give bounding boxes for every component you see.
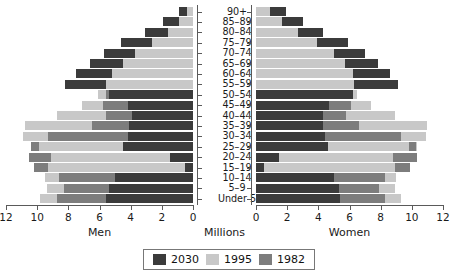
segment-1982-women (329, 101, 351, 110)
segment-1995-women (256, 163, 410, 172)
age-group-label: 75–79 (206, 38, 268, 47)
x-tick-men (68, 205, 69, 210)
age-group-label: 60–64 (206, 69, 268, 78)
age-group-label: 5–9 (206, 183, 268, 192)
x-tick-label-men: 12 (0, 211, 19, 223)
segment-1995-women (256, 69, 353, 78)
x-tick-label-women: 4 (305, 211, 331, 223)
segment-1982-women (395, 163, 411, 172)
age-group-label: 65–69 (206, 59, 268, 68)
x-tick-women (256, 205, 257, 210)
segment-2030-women (282, 17, 302, 26)
segment-2030-women (298, 28, 323, 37)
segment-2030-women (256, 184, 339, 193)
segment-2030-women (354, 80, 398, 89)
segment-1982-women (393, 153, 416, 162)
x-tick-label-men: 0 (180, 211, 206, 223)
legend-item: 1995 (206, 253, 252, 266)
legend-item: 1982 (259, 253, 305, 266)
x-tick-label-men: 8 (55, 211, 81, 223)
x-tick-label-women: 2 (274, 211, 300, 223)
age-tick-left (198, 199, 202, 200)
segment-2030-women (353, 69, 390, 78)
segment-1982-women (409, 142, 417, 151)
population-pyramid-chart: 90+85–8980–8475–7970–7465–6960–6455–5950… (0, 0, 450, 274)
segment-1982-women (325, 132, 401, 141)
age-group-label: 55–59 (206, 79, 268, 88)
age-tick-left (198, 74, 202, 75)
x-tick-women (318, 205, 319, 210)
axis-label-men: Men (60, 226, 140, 239)
age-group-label: 80–84 (206, 27, 268, 36)
age-tick-left (198, 147, 202, 148)
x-tick-women (443, 205, 444, 210)
age-tick-left (198, 32, 202, 33)
x-tick-label-women: 0 (243, 211, 269, 223)
age-group-label: 85–89 (206, 17, 268, 26)
age-tick-left (198, 105, 202, 106)
legend-label-1982: 1982 (277, 253, 305, 266)
age-tick-left (198, 168, 202, 169)
legend-label-1995: 1995 (224, 253, 252, 266)
age-group-label: 45–49 (206, 100, 268, 109)
x-tick-men (6, 205, 7, 210)
segment-2030-women (345, 59, 378, 68)
x-tick-label-women: 12 (430, 211, 450, 223)
age-group-label: 70–74 (206, 48, 268, 57)
segment-1982-women (323, 111, 346, 120)
age-tick-left (198, 53, 202, 54)
x-tick-women (350, 205, 351, 210)
axis-label-millions: Millions (185, 226, 265, 239)
age-group-label: 50–54 (206, 90, 268, 99)
age-group-label: Under 5 (206, 194, 268, 203)
legend-label-2030: 2030 (171, 253, 199, 266)
age-tick-left (198, 116, 202, 117)
axis-label-women: Women (310, 226, 390, 239)
segment-2030-women (317, 38, 348, 47)
age-tick-left (198, 178, 202, 179)
age-tick-left (198, 136, 202, 137)
center-axis-right (251, 5, 252, 205)
legend-swatch-1982 (259, 254, 272, 265)
age-tick-left (198, 95, 202, 96)
age-tick-left (198, 188, 202, 189)
x-tick-men (193, 205, 194, 210)
age-group-label: 30–34 (206, 131, 268, 140)
age-group-label: 10–14 (206, 173, 268, 182)
chart-legend: 203019951982 (143, 249, 315, 270)
x-tick-men (131, 205, 132, 210)
segment-2030-women (256, 194, 340, 203)
x-tick-label-men: 2 (149, 211, 175, 223)
age-group-label: 90+ (206, 7, 268, 16)
segment-2030-women (334, 49, 365, 58)
center-axis-left (197, 5, 198, 205)
x-tick-men (162, 205, 163, 210)
age-tick-left (198, 84, 202, 85)
x-tick-women (287, 205, 288, 210)
segment-1982-women (323, 121, 359, 130)
segment-2030-women (256, 90, 353, 99)
x-tick-men (37, 205, 38, 210)
age-tick-left (198, 126, 202, 127)
x-tick-label-men: 4 (118, 211, 144, 223)
age-tick-left (198, 22, 202, 23)
x-tick-label-women: 10 (399, 211, 425, 223)
x-tick-men (100, 205, 101, 210)
age-group-label: 35–39 (206, 121, 268, 130)
x-tick-label-women: 6 (337, 211, 363, 223)
age-group-label: 20–24 (206, 152, 268, 161)
age-tick-left (198, 43, 202, 44)
x-tick-label-men: 6 (87, 211, 113, 223)
segment-1982-women (340, 194, 385, 203)
segment-2030-women (270, 7, 286, 16)
segment-1982-women (334, 173, 385, 182)
segment-1995-women (256, 80, 354, 89)
segment-1995-women (256, 59, 345, 68)
age-group-label: 25–29 (206, 142, 268, 151)
legend-item: 2030 (153, 253, 199, 266)
x-tick-label-women: 8 (368, 211, 394, 223)
age-tick-left (198, 157, 202, 158)
legend-swatch-2030 (153, 254, 166, 265)
age-group-label: 15–19 (206, 163, 268, 172)
age-tick-left (198, 12, 202, 13)
